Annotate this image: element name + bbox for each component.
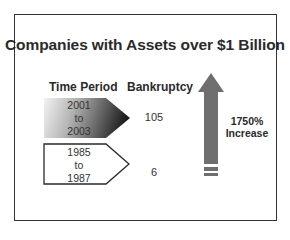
bankruptcy-count-2001-2003: 105 — [140, 111, 168, 123]
bankruptcy-count-1985-1987: 6 — [140, 166, 168, 178]
slide-title: Companies with Assets over $1 Billion — [0, 36, 290, 54]
increase-label: Increase — [225, 127, 269, 139]
increase-annotation: 1750% Increase — [225, 115, 269, 139]
period-label-2001-2003: 2001 to 2003 — [44, 99, 114, 138]
up-arrow-icon — [196, 72, 226, 184]
period-label-1985-1987: 1985 to 1987 — [44, 146, 114, 185]
increase-value: 1750% — [225, 115, 269, 127]
header-bankruptcy: Bankruptcy — [127, 80, 193, 94]
header-time-period: Time Period — [49, 80, 117, 94]
